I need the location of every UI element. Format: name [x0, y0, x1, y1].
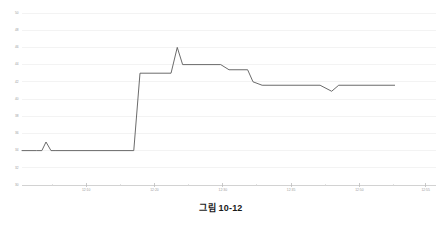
figure-caption: 그림 10-12 [0, 201, 442, 214]
y-tick-label: 30 [15, 183, 19, 187]
x-tick-label: 12:35 [287, 188, 296, 192]
y-tick-label: 40 [15, 97, 19, 101]
x-tick-label: 12:30 [219, 188, 228, 192]
y-axis-labels-group: 3032343638404244464850 [15, 11, 19, 187]
figure-container: 3032343638404244464850 12:1012:2012:3012… [0, 0, 442, 230]
x-axis-labels-group: 12:1012:2012:3012:3512:5012:55 [82, 188, 430, 192]
y-tick-label: 46 [15, 45, 19, 49]
x-tick-label: 12:50 [355, 188, 364, 192]
chart-plot-area: 3032343638404244464850 12:1012:2012:3012… [0, 0, 442, 200]
y-tick-label: 34 [15, 148, 19, 152]
x-axis-group [22, 183, 436, 186]
y-tick-label: 32 [15, 166, 19, 170]
x-tick-label: 12:20 [150, 188, 159, 192]
y-tick-label: 42 [15, 80, 19, 84]
line-chart-svg: 3032343638404244464850 12:1012:2012:3012… [0, 0, 442, 200]
gridlines-group [22, 13, 436, 185]
y-tick-label: 48 [15, 28, 19, 32]
x-tick-label: 12:10 [82, 188, 91, 192]
y-tick-label: 36 [15, 131, 19, 135]
x-tick-label: 12:55 [421, 188, 430, 192]
y-tick-label: 50 [15, 11, 19, 15]
y-tick-label: 44 [15, 62, 19, 66]
y-tick-label: 38 [15, 114, 19, 118]
